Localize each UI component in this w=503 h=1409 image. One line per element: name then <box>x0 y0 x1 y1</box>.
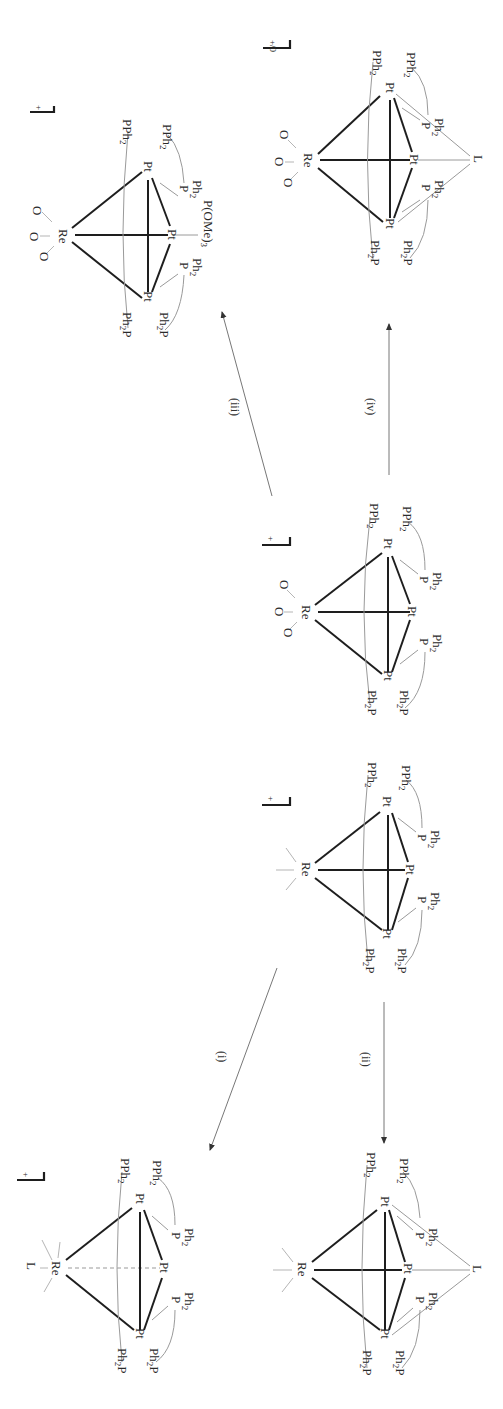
pph2-ligand: PPh2 <box>368 50 385 75</box>
pph2-ligand: PPh2 <box>158 124 175 149</box>
oxo-atom: O <box>272 607 287 616</box>
p-atom: P <box>415 834 430 841</box>
charge-label: + <box>21 1172 31 1177</box>
ph2-group: Ph2 <box>180 1292 197 1310</box>
ph2p-ligand: Ph2P <box>358 1350 375 1375</box>
oxo-atom: O <box>27 232 42 241</box>
l-ligand: L <box>471 155 486 163</box>
compound-reco3-l: Re Pt Pt Pt PPh2 PPh2 Ph2P Ph2P P Ph2 P … <box>273 1152 485 1375</box>
rhenium-atom: Re <box>299 605 314 620</box>
platinum-atom: Pt <box>407 154 422 165</box>
p-atom: P <box>177 185 192 192</box>
rhenium-atom: Re <box>49 1261 64 1276</box>
ph2-group: Ph2 <box>424 1228 441 1246</box>
p-atom: P <box>419 184 434 191</box>
p-atom: P <box>177 262 192 269</box>
ph2-group: Ph2 <box>430 180 447 198</box>
ph2p-ligand: Ph2P <box>113 1348 130 1373</box>
p-atom: P <box>169 1232 184 1239</box>
charge-label: + <box>266 536 276 541</box>
l-ligand: L <box>470 1265 485 1273</box>
oxo-atom: O <box>277 580 292 589</box>
rhenium-atom: Re <box>295 1262 310 1277</box>
ph2-group: Ph2 <box>426 892 443 910</box>
charge-label: + <box>34 105 44 110</box>
pph2-ligand: PPh2 <box>363 762 380 787</box>
reaction-arrow-iii: (iii) <box>222 312 272 496</box>
pph2-ligand: PPh2 <box>397 765 414 790</box>
ph2p-ligand: Ph2P <box>145 1348 162 1373</box>
platinum-atom: Pt <box>133 1193 148 1204</box>
platinum-atom: Pt <box>157 1262 172 1273</box>
pph2-ligand: PPh2 <box>362 1152 379 1177</box>
reaction-scheme: + O O O Re Pt Pt Pt PPh2 PPh2 Ph2P Ph2P … <box>0 0 503 1409</box>
ph2-group: Ph2 <box>180 1228 197 1246</box>
platinum-atom: Pt <box>378 1328 393 1339</box>
oxo-atom: O <box>277 130 292 139</box>
charge-label: + <box>266 796 276 801</box>
pph2-ligand: PPh2 <box>116 1158 133 1183</box>
rhenium-atom: Re <box>56 229 71 244</box>
ph2-group: Ph2 <box>188 180 205 198</box>
p-atom: P <box>417 576 432 583</box>
reaction-arrow-ii: (ii) <box>359 1002 384 1143</box>
platinum-atom: Pt <box>401 1263 416 1274</box>
oxo-atom: O <box>272 157 287 166</box>
platinum-atom: Pt <box>141 161 156 172</box>
ph2-group: Ph2 <box>428 572 445 590</box>
ph2p-ligand: Ph2P <box>395 690 412 715</box>
oxo-atom: O <box>37 252 52 261</box>
oxo-atom: O <box>281 178 296 187</box>
pph2-ligand: PPh2 <box>398 506 415 531</box>
reaction-label: (i) <box>215 1051 229 1062</box>
reaction-arrow-iv: (iv) <box>364 324 389 475</box>
p-atom: P <box>415 896 430 903</box>
oxo-atom: O <box>30 206 45 215</box>
ph2p-ligand: Ph2P <box>366 240 383 265</box>
platinum-atom: Pt <box>380 928 395 939</box>
platinum-atom: Pt <box>380 796 395 807</box>
pph2-ligand: PPh2 <box>365 503 382 528</box>
compound-l-reco3: + L Re Pt Pt Pt PPh2 PPh2 Ph2P Ph2P P Ph… <box>17 1158 197 1373</box>
p-atom: P <box>419 122 434 129</box>
platinum-atom: Pt <box>133 1328 148 1339</box>
charge-label: +/0 <box>268 40 278 53</box>
compound-reo3-pome3: + O O O Re Pt Pt Pt PPh2 PPh2 Ph2P Ph2P … <box>27 105 216 337</box>
ph2p-ligand: Ph2P <box>391 1350 408 1375</box>
ph2p-ligand: Ph2P <box>399 240 416 265</box>
p-atom: P <box>413 1232 428 1239</box>
platinum-atom: Pt <box>381 538 396 549</box>
reaction-label: (iii) <box>228 398 242 416</box>
ph2-group: Ph2 <box>424 1292 441 1310</box>
reaction-arrow-i: (i) <box>210 968 277 1150</box>
ph2p-ligand: Ph2P <box>155 312 172 337</box>
platinum-atom: Pt <box>141 291 156 302</box>
pome3-ligand: P(OMe)3 <box>199 200 216 248</box>
rhenium-atom: Re <box>301 153 316 168</box>
pph2-ligand: PPh2 <box>402 52 419 77</box>
ph2p-ligand: Ph2P <box>118 312 135 337</box>
ph2-group: Ph2 <box>430 118 447 136</box>
platinum-atom: Pt <box>381 670 396 681</box>
compound-reco3-start: + Re Pt Pt Pt PPh2 PPh2 Ph2P Ph2P P Ph2 … <box>262 762 443 973</box>
ph2p-ligand: Ph2P <box>393 948 410 973</box>
l-ligand: L <box>24 1262 39 1270</box>
reaction-label: (ii) <box>359 1052 373 1067</box>
pph2-ligand: PPh2 <box>118 119 135 144</box>
platinum-atom: Pt <box>405 606 420 617</box>
p-atom: P <box>169 1296 184 1303</box>
platinum-atom: Pt <box>165 229 180 240</box>
rhenium-atom: Re <box>299 862 314 877</box>
p-atom: P <box>417 638 432 645</box>
ph2p-ligand: Ph2P <box>363 690 380 715</box>
ph2-group: Ph2 <box>428 634 445 652</box>
oxo-atom: O <box>281 628 296 637</box>
platinum-atom: Pt <box>383 82 398 93</box>
compound-reo3-l: +/0 O O O Re Pt Pt Pt PPh2 PPh2 Ph2P Ph2… <box>263 40 486 265</box>
reaction-label: (iv) <box>364 398 378 415</box>
ph2p-ligand: Ph2P <box>361 948 378 973</box>
platinum-atom: Pt <box>383 218 398 229</box>
platinum-atom: Pt <box>403 864 418 875</box>
compound-reo3-start: + O O O Re Pt Pt Pt PPh2 PPh2 Ph2P Ph2P … <box>262 503 445 715</box>
p-atom: P <box>413 1296 428 1303</box>
